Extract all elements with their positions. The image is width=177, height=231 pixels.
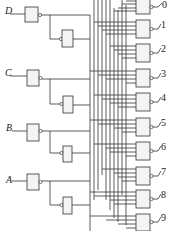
inverter-gate <box>62 30 73 47</box>
input-a-block: A <box>5 174 90 214</box>
nand-gate-7 <box>136 167 150 185</box>
input-d-block: D <box>4 5 90 47</box>
decoder-circuit: D C B A <box>0 0 177 231</box>
inversion-bubble-icon <box>38 13 41 16</box>
inverter-gate <box>25 7 38 22</box>
inverter-gate <box>27 124 39 141</box>
output-label-0: 0 <box>162 0 167 10</box>
input-b-block: B <box>6 122 90 162</box>
inversion-bubble-icon <box>39 180 42 183</box>
nand-gate-5 <box>136 118 150 136</box>
inverter-gate <box>63 146 72 162</box>
nand-gate-4 <box>136 93 150 111</box>
input-label-b: B <box>6 122 12 133</box>
nand-gate-0 <box>136 0 150 14</box>
nand-gate-1 <box>136 20 150 38</box>
output-label-9: 9 <box>161 212 166 223</box>
output-gates: 0 1 2 3 4 5 6 7 <box>90 0 167 231</box>
inverter-gate <box>63 96 73 113</box>
inversion-bubble-icon <box>39 76 42 79</box>
inverter-gate <box>63 197 72 214</box>
output-label-1: 1 <box>161 19 166 30</box>
nand-gate-2 <box>136 44 150 62</box>
output-label-6: 6 <box>161 141 166 152</box>
nand-gate-8 <box>136 190 150 208</box>
output-label-3: 3 <box>161 68 166 79</box>
output-label-5: 5 <box>161 117 166 128</box>
inverter-gate <box>27 174 39 190</box>
inversion-bubble-icon <box>39 129 42 132</box>
nand-gate-9 <box>136 214 150 231</box>
nand-gate-6 <box>136 142 150 160</box>
output-label-4: 4 <box>161 92 166 103</box>
output-label-7: 7 <box>161 166 166 177</box>
inverter-gate <box>27 70 39 86</box>
output-label-8: 8 <box>161 189 166 200</box>
input-c-block: C <box>5 67 90 113</box>
output-label-2: 2 <box>161 43 166 54</box>
input-label-a: A <box>5 174 13 185</box>
nand-gate-3 <box>136 69 150 87</box>
